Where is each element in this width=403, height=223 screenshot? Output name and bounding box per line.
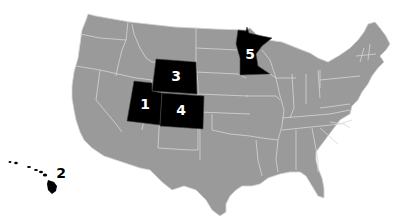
us-base [72, 14, 390, 216]
label-utah: 1 [140, 96, 150, 112]
label-hawaii: 2 [56, 165, 66, 181]
label-colorado: 4 [176, 102, 186, 118]
label-minnesota: 5 [245, 46, 255, 62]
us-map: 1 3 4 5 2 [0, 0, 403, 223]
label-wyoming: 3 [171, 68, 181, 84]
state-hawaii[interactable] [9, 161, 58, 194]
